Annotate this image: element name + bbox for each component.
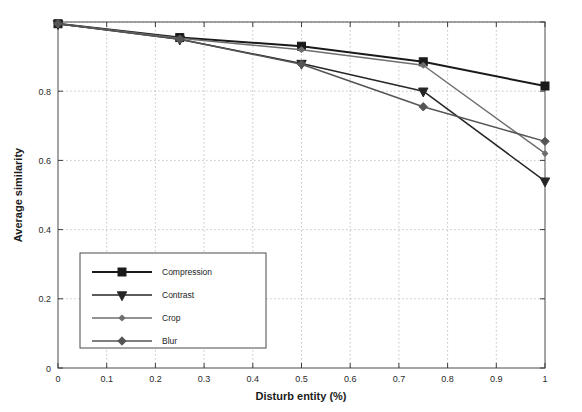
y-tick-label: 0.2	[38, 294, 51, 304]
legend-item-label: Compression	[162, 267, 212, 277]
chart-figure: 00.10.20.30.40.50.60.70.80.91 00.20.40.6…	[0, 0, 582, 412]
x-tick-label: 0.5	[295, 374, 308, 384]
x-tick-label: 0.3	[198, 374, 211, 384]
data-point-marker	[541, 82, 549, 90]
x-tick-label: 0.7	[393, 374, 406, 384]
y-tick-label: 0.6	[38, 156, 51, 166]
chart-legend: CompressionContrastCropBlur	[80, 253, 266, 348]
x-tick-label: 0.4	[247, 374, 260, 384]
x-tick-label: 0.8	[441, 374, 454, 384]
legend-item-label: Blur	[162, 336, 177, 346]
y-tick-label: 0.4	[38, 225, 51, 235]
x-tick-label: 0.1	[100, 374, 113, 384]
x-tick-label: 0	[55, 374, 60, 384]
legend-item-label: Crop	[162, 313, 181, 323]
data-point-marker	[118, 268, 126, 276]
x-tick-label: 0.6	[344, 374, 357, 384]
x-axis-label: Disturb entity (%)	[255, 390, 346, 402]
x-axis-tick-labels: 00.10.20.30.40.50.60.70.80.91	[55, 374, 547, 384]
x-tick-label: 1	[542, 374, 547, 384]
y-tick-label: 0.8	[38, 87, 51, 97]
legend-item-label: Contrast	[162, 290, 195, 300]
x-tick-label: 0.9	[490, 374, 503, 384]
y-axis-tick-labels: 00.20.40.60.8	[38, 87, 51, 374]
y-axis-label: Average similarity	[12, 147, 24, 242]
line-chart-canvas: 00.10.20.30.40.50.60.70.80.91 00.20.40.6…	[0, 0, 582, 412]
x-tick-label: 0.2	[149, 374, 162, 384]
y-tick-label: 0	[46, 364, 51, 374]
